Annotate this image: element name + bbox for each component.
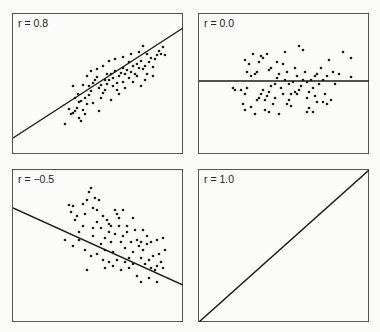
data-point — [122, 56, 125, 59]
data-point — [120, 72, 123, 75]
data-point — [304, 71, 307, 74]
data-point — [114, 58, 117, 61]
data-point — [104, 267, 107, 270]
data-point — [112, 77, 115, 80]
data-point — [268, 91, 271, 94]
data-point — [118, 93, 121, 96]
data-point — [148, 277, 151, 280]
data-point — [296, 75, 299, 78]
data-point — [102, 65, 105, 68]
data-point — [126, 231, 129, 234]
data-point — [112, 265, 115, 268]
data-point — [164, 54, 167, 57]
data-point — [80, 120, 83, 123]
data-point — [72, 112, 75, 115]
data-point — [122, 81, 125, 84]
data-point — [282, 63, 285, 66]
data-point — [82, 109, 85, 112]
correlation-label: r = 0.0 — [204, 17, 234, 29]
data-point — [132, 217, 135, 220]
scatter-plot — [13, 14, 183, 154]
data-point — [286, 103, 289, 106]
data-point — [258, 97, 261, 100]
data-point — [316, 101, 319, 104]
data-point — [72, 85, 75, 88]
data-point — [272, 103, 275, 106]
data-point — [158, 50, 161, 53]
data-point — [324, 93, 327, 96]
data-point — [110, 241, 113, 244]
data-point — [108, 231, 111, 234]
data-point — [144, 79, 147, 82]
data-point — [90, 70, 93, 73]
data-point — [250, 75, 253, 78]
data-point — [108, 60, 111, 63]
data-point — [102, 259, 105, 262]
data-point — [244, 93, 247, 96]
data-point — [132, 65, 135, 68]
data-point — [322, 101, 325, 104]
data-point — [246, 71, 249, 74]
data-point — [96, 68, 99, 71]
data-point — [118, 217, 121, 220]
data-point — [84, 97, 87, 100]
data-point — [78, 239, 81, 242]
data-point — [116, 259, 119, 262]
data-point — [120, 269, 123, 272]
data-point — [306, 97, 309, 100]
data-point — [152, 75, 155, 78]
data-point — [114, 209, 117, 212]
data-point — [136, 275, 139, 278]
data-point — [64, 123, 67, 126]
data-point — [96, 209, 99, 212]
data-point — [144, 65, 147, 68]
data-point — [256, 99, 259, 102]
data-point — [318, 83, 321, 86]
data-point — [296, 93, 299, 96]
data-point — [96, 253, 99, 256]
data-point — [312, 87, 315, 90]
data-point — [160, 53, 163, 56]
data-point — [82, 203, 85, 206]
regression-line — [199, 170, 369, 322]
data-point — [76, 107, 79, 110]
data-point — [162, 46, 165, 49]
data-point — [68, 204, 71, 207]
data-point — [92, 82, 95, 85]
data-point — [248, 63, 251, 66]
data-point — [156, 265, 159, 268]
data-point — [280, 87, 283, 90]
scatter-plot — [13, 170, 183, 322]
data-point — [288, 99, 291, 102]
data-point — [142, 249, 145, 252]
data-point — [88, 191, 91, 194]
data-point — [100, 84, 103, 87]
data-point — [350, 57, 353, 60]
data-point — [254, 73, 257, 76]
data-point — [308, 107, 311, 110]
data-point — [86, 103, 89, 106]
data-point — [116, 89, 119, 92]
data-point — [250, 106, 253, 109]
data-point — [266, 95, 269, 98]
data-point — [96, 76, 99, 79]
data-point — [72, 205, 75, 208]
data-point — [130, 53, 133, 56]
data-point — [142, 45, 145, 48]
data-point — [126, 69, 129, 72]
data-point — [140, 85, 143, 88]
data-point — [146, 243, 149, 246]
data-point — [314, 75, 317, 78]
data-point — [104, 89, 107, 92]
correlation-label: r = 1.0 — [204, 173, 234, 185]
data-point — [146, 73, 149, 76]
scatter-panel: r = 0.0 — [198, 13, 369, 154]
scatter-panel: r = 0.8 — [12, 13, 183, 154]
data-point — [136, 75, 139, 78]
scatter-panel: r = −0.5 — [12, 169, 183, 322]
data-point — [320, 67, 323, 70]
data-point — [150, 57, 153, 60]
correlation-label: r = 0.8 — [18, 17, 48, 29]
data-point — [94, 197, 97, 200]
data-point — [104, 237, 107, 240]
